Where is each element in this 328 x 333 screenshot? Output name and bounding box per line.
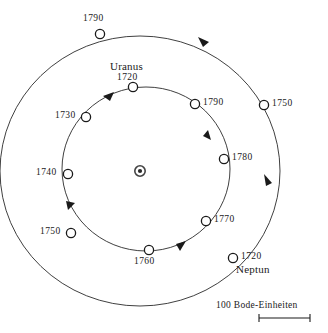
orbit-label-neptun-1720: 1720 — [241, 252, 262, 262]
direction-arrow-outer-right — [264, 174, 272, 186]
orbit-label-uranus-1780: 1780 — [232, 153, 253, 163]
direction-arrow-outer-top — [198, 37, 209, 47]
orbit-marker-uranus-1790 — [190, 99, 199, 108]
orbit-marker-neptun-1720 — [228, 253, 237, 262]
orbit-label-uranus-1730: 1730 — [55, 111, 76, 121]
direction-arrow-inner-topleft — [103, 92, 114, 101]
direction-arrow-inner-right — [203, 130, 211, 140]
direction-arrow-inner-bottom — [176, 241, 186, 251]
sun-symbol — [135, 166, 145, 176]
orbital-diagram-figure: 1790 1750 1720 Neptun Uranus 1720 1730 1… — [0, 0, 328, 333]
direction-arrow-inner-left — [66, 201, 75, 210]
orbit-marker-uranus-1730 — [81, 112, 90, 121]
orbit-label-uranus-1740: 1740 — [36, 168, 57, 178]
orbit-label-uranus-1770: 1770 — [214, 215, 235, 225]
orbit-label-uranus-1760: 1760 — [134, 257, 155, 267]
orbit-label-uranus-1750: 1750 — [40, 227, 61, 237]
orbit-marker-neptun-1790 — [95, 29, 104, 38]
orbit-label-uranus-1720: 1720 — [117, 73, 138, 83]
planet-label-neptun: Neptun — [236, 264, 270, 276]
planet-label-uranus: Uranus — [110, 61, 143, 73]
orbit-marker-uranus-1780 — [219, 154, 228, 163]
orbit-marker-uranus-1760 — [144, 245, 153, 254]
orbit-marker-uranus-1750 — [66, 228, 75, 237]
orbit-marker-uranus-1720 — [128, 82, 137, 91]
orbit-marker-uranus-1770 — [201, 216, 210, 225]
orbit-label-uranus-1790: 1790 — [203, 98, 224, 108]
scale-bar — [259, 314, 310, 322]
orbit-marker-neptun-1750 — [259, 100, 268, 109]
inner-orbit-path-uranus — [62, 87, 230, 251]
orbit-label-neptun-1790: 1790 — [83, 14, 104, 24]
scale-bar-caption: 100 Bode-Einheiten — [216, 300, 298, 310]
orbit-label-neptun-1750: 1750 — [272, 99, 293, 109]
orbit-marker-uranus-1740 — [63, 169, 72, 178]
